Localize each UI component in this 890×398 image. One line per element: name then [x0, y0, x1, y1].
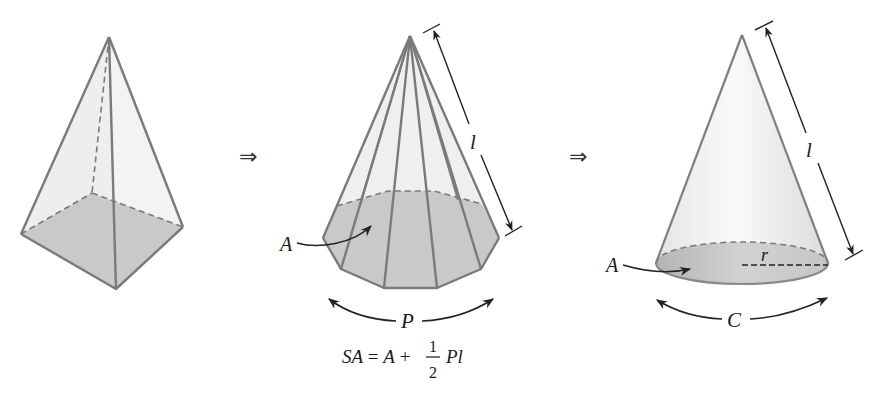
slant-height-label-l: l: [806, 138, 812, 162]
circumference-label-c: C: [727, 308, 742, 332]
implies-arrow-2: ⇒: [569, 144, 587, 169]
slant-height-label-l: l: [470, 130, 476, 154]
base-area-label-a: A: [278, 233, 293, 255]
formula-frac-den: 2: [429, 364, 437, 381]
square-pyramid: [21, 37, 183, 289]
implies-arrow-1: ⇒: [239, 144, 257, 169]
base-area-label-a: A: [604, 254, 619, 276]
perimeter-label-p: P: [400, 309, 414, 333]
decagonal-pyramid: l A P: [278, 24, 522, 333]
cone: r l A C: [604, 21, 863, 332]
formula-frac-num: 1: [429, 338, 437, 355]
formula-lhs: SA = A +: [342, 346, 410, 367]
surface-area-formula: SA = A + 1 2 Pl: [342, 338, 463, 381]
radius-label-r: r: [761, 245, 769, 265]
formula-rhs: Pl: [445, 346, 463, 367]
